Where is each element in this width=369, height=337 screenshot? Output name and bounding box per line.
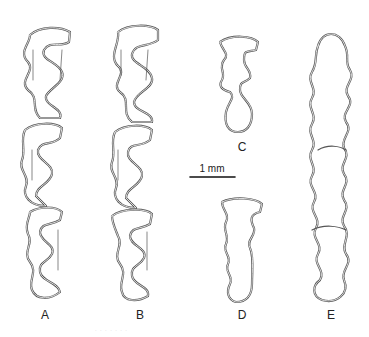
specimen-a-drawing <box>21 28 70 298</box>
caption-fragment: · · · · · · · <box>95 327 128 333</box>
label-b: B <box>136 308 144 322</box>
specimen-c-drawing <box>220 37 258 132</box>
specimen-b-drawing <box>111 26 158 300</box>
specimen-e-drawing <box>310 34 351 301</box>
figure-drawing <box>0 0 369 337</box>
specimen-d-drawing <box>222 198 262 302</box>
label-d: D <box>238 308 247 322</box>
scale-bar-label: 1 mm <box>200 163 225 174</box>
label-e: E <box>327 308 335 322</box>
label-c: C <box>238 140 247 154</box>
label-a: A <box>41 308 49 322</box>
